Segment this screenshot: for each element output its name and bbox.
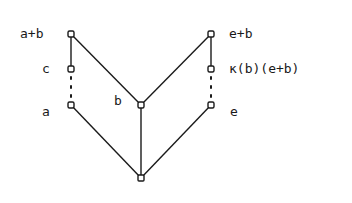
edge-aplusb-b: [71, 34, 141, 105]
node-a-plus-b: [68, 31, 74, 37]
label-e-plus-b: e+b: [229, 26, 253, 41]
edge-eplusb-b: [141, 34, 211, 105]
label-kappa: κ(b)(e+b): [229, 61, 299, 76]
node-e: [208, 102, 214, 108]
label-e: e: [230, 104, 238, 119]
node-a: [68, 102, 74, 108]
edge-a-bottom: [71, 105, 141, 178]
node-b: [138, 102, 144, 108]
label-a: a: [42, 104, 50, 119]
edge-e-bottom: [141, 105, 211, 178]
label-c: c: [42, 61, 50, 76]
node-bottom: [138, 175, 144, 181]
node-e-plus-b: [208, 31, 214, 37]
label-b: b: [114, 93, 122, 108]
lattice-diagram: a+b c a b e+b κ(b)(e+b) e: [0, 0, 352, 203]
label-a-plus-b: a+b: [20, 26, 44, 41]
node-kappa: [208, 66, 214, 72]
node-c: [68, 66, 74, 72]
